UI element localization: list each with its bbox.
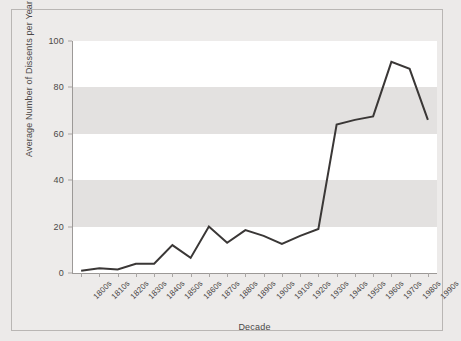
x-tick-mark — [136, 273, 137, 277]
x-tick-mark — [172, 273, 173, 277]
x-tick-mark — [264, 273, 265, 277]
plot-area — [72, 41, 437, 273]
x-tick-label: 1950s — [365, 279, 387, 301]
y-tick-mark — [68, 226, 72, 227]
y-tick-mark — [68, 87, 72, 88]
x-tick-mark — [391, 273, 392, 277]
y-axis-ticks: 020406080100 — [12, 41, 72, 273]
x-tick-mark — [245, 273, 246, 277]
x-tick-mark — [191, 273, 192, 277]
y-tick-label: 40 — [54, 175, 64, 185]
x-tick-mark — [154, 273, 155, 277]
y-tick-mark — [68, 133, 72, 134]
x-tick-mark — [428, 273, 429, 277]
x-tick-label: 1920s — [311, 279, 333, 301]
x-tick-label: 1800s — [92, 279, 114, 301]
x-tick-label: 1840s — [165, 279, 187, 301]
x-tick-label: 1930s — [329, 279, 351, 301]
x-tick-label: 1810s — [110, 279, 132, 301]
dissents-series-line — [81, 62, 428, 271]
y-tick-label: 0 — [59, 268, 64, 278]
y-tick-mark — [68, 41, 72, 42]
x-tick-label: 1910s — [292, 279, 314, 301]
series-line-svg — [72, 41, 437, 273]
x-tick-label: 1940s — [347, 279, 369, 301]
x-tick-label: 1900s — [274, 279, 296, 301]
x-axis-title: Decade — [72, 322, 437, 332]
y-tick-label: 60 — [54, 129, 64, 139]
y-tick-label: 20 — [54, 222, 64, 232]
x-tick-mark — [81, 273, 82, 277]
x-tick-label: 1970s — [402, 279, 424, 301]
x-tick-label: 1830s — [146, 279, 168, 301]
x-tick-label: 1980s — [420, 279, 442, 301]
y-tick-mark — [68, 180, 72, 181]
y-axis-line — [72, 41, 73, 273]
x-tick-label: 1880s — [238, 279, 260, 301]
x-tick-label: 1820s — [128, 279, 150, 301]
x-tick-mark — [118, 273, 119, 277]
x-tick-mark — [355, 273, 356, 277]
x-tick-mark — [318, 273, 319, 277]
x-tick-label: 1960s — [384, 279, 406, 301]
x-tick-label: 1990s — [438, 279, 460, 301]
x-tick-mark — [300, 273, 301, 277]
x-tick-label: 1870s — [219, 279, 241, 301]
x-tick-mark — [99, 273, 100, 277]
x-tick-mark — [209, 273, 210, 277]
x-tick-mark — [227, 273, 228, 277]
x-tick-label: 1890s — [256, 279, 278, 301]
x-tick-label: 1860s — [201, 279, 223, 301]
x-tick-label: 1850s — [183, 279, 205, 301]
x-axis-ticks: 1800s1810s1820s1830s1840s1850s1860s1870s… — [72, 273, 437, 319]
x-tick-mark — [373, 273, 374, 277]
x-tick-mark — [410, 273, 411, 277]
y-tick-label: 80 — [54, 82, 64, 92]
chart-frame: Average Number of Dissents per Year 0204… — [11, 9, 443, 331]
x-tick-mark — [282, 273, 283, 277]
x-tick-mark — [337, 273, 338, 277]
y-tick-label: 100 — [48, 36, 64, 46]
